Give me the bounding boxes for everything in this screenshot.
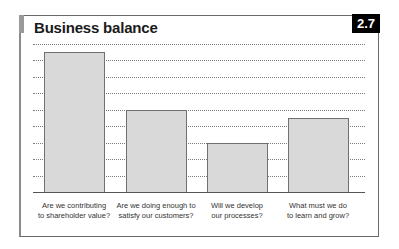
bar-processes [207,143,268,192]
bar-shareholder-value [44,52,105,192]
bar-customers [126,110,187,192]
bar-learn-grow [288,118,349,192]
figure-number-badge: 2.7 [352,14,380,33]
x-label-line: What must we do [268,201,368,211]
x-label-line: to learn and grow? [268,211,368,221]
gridline [33,44,365,45]
x-label-learn-grow: What must we do to learn and grow? [268,201,368,221]
chart-title: Business balance [34,19,158,36]
frame-accent-tab [19,15,24,33]
x-axis-baseline [33,192,365,193]
